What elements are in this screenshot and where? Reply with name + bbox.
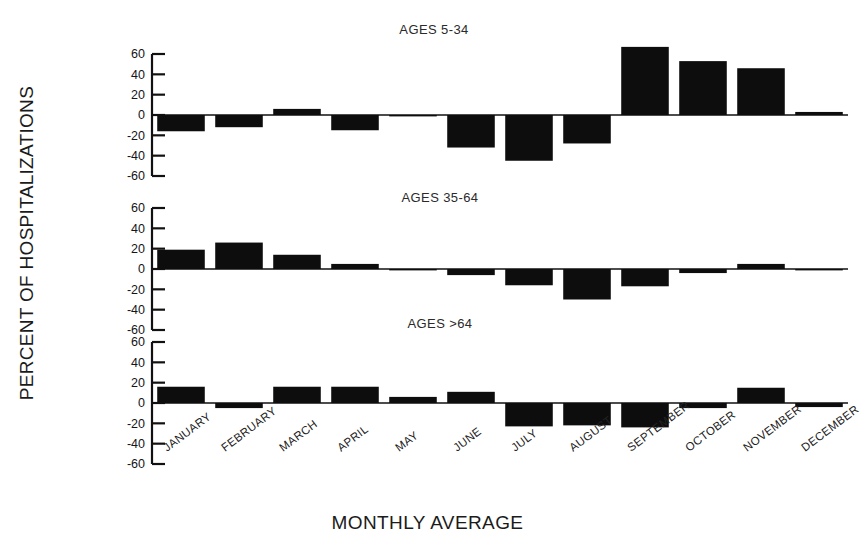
panel-ages-5-34: AGES 5-34 6040200-20-40-60	[96, 22, 848, 182]
y-tick-label: 40	[131, 68, 145, 82]
bar	[447, 115, 495, 148]
y-tick-label: 20	[131, 376, 145, 390]
bar	[795, 269, 843, 270]
bar	[273, 387, 321, 403]
y-tick-label: 60	[131, 47, 145, 61]
y-tick-label: 20	[131, 242, 145, 256]
bar	[447, 392, 495, 403]
bar	[737, 68, 785, 115]
bar	[215, 243, 263, 269]
bar	[505, 269, 553, 285]
y-tick-label: -20	[127, 283, 145, 297]
bar	[273, 109, 321, 115]
y-tick-label: -60	[127, 169, 145, 183]
bar	[331, 115, 379, 130]
x-axis-title: MONTHLY AVERAGE	[0, 512, 855, 534]
plot-svg: 6040200-20-40-60	[96, 208, 848, 330]
bar	[157, 115, 205, 131]
bar	[505, 115, 553, 161]
y-tick-label: -20	[127, 129, 145, 143]
bar	[447, 269, 495, 275]
bar	[331, 387, 379, 403]
y-tick-label: 40	[131, 356, 145, 370]
bar	[679, 269, 727, 273]
bar	[215, 115, 263, 127]
bar	[505, 403, 553, 426]
bar	[621, 47, 669, 115]
panel-ages-35-64: AGES 35-64 6040200-20-40-60	[96, 190, 848, 322]
y-tick-label: -40	[127, 303, 145, 317]
y-tick-label: 0	[138, 396, 145, 410]
bar	[737, 388, 785, 403]
y-tick-label: 40	[131, 222, 145, 236]
plot-area: 6040200-20-40-60	[96, 208, 848, 330]
y-tick-label: 20	[131, 88, 145, 102]
bar	[795, 403, 843, 407]
panel-title: AGES 35-64	[64, 190, 816, 205]
y-tick-label: 60	[131, 201, 145, 215]
y-tick-label: -40	[127, 149, 145, 163]
bar	[563, 269, 611, 300]
y-tick-label: 0	[138, 262, 145, 276]
bar	[157, 387, 205, 403]
bar	[621, 269, 669, 286]
y-axis-title: PERCENT OF HOSPITALIZATIONS	[10, 8, 44, 478]
panel-title: AGES >64	[64, 316, 816, 331]
bar	[389, 397, 437, 403]
bar	[331, 264, 379, 269]
bar	[215, 403, 263, 408]
bar	[563, 115, 611, 143]
bar	[795, 112, 843, 115]
bar	[157, 250, 205, 269]
plot-svg: 6040200-20-40-60	[96, 54, 848, 176]
plot-area: 6040200-20-40-60	[96, 54, 848, 176]
y-tick-label: 60	[131, 335, 145, 349]
bar	[273, 255, 321, 269]
bar	[389, 115, 437, 116]
panel-title: AGES 5-34	[58, 22, 810, 37]
bar	[737, 264, 785, 269]
bar	[389, 269, 437, 270]
bar	[679, 61, 727, 115]
y-tick-label: 0	[138, 108, 145, 122]
x-axis-tick-labels: JANUARYFEBRUARYMARCHAPRILMAYJUNEJULYAUGU…	[96, 444, 848, 520]
y-tick-label: -20	[127, 417, 145, 431]
